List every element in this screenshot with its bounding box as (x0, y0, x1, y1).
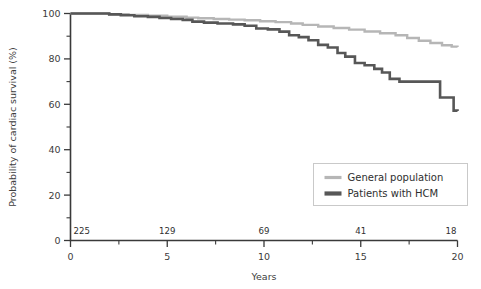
legend-label-1: Patients with HCM (348, 188, 439, 199)
chart-legend: General populationPatients with HCM (314, 164, 468, 206)
y-tick-label: 100 (42, 8, 60, 19)
x-axis-title: Years (250, 271, 276, 282)
y-axis-title: Probability of cardiac survival (%) (7, 47, 18, 207)
chart-canvas: 02040608010005101520 225129694118 Probab… (0, 0, 481, 289)
x-tick-label: 15 (355, 251, 367, 262)
y-tick-label: 20 (48, 190, 60, 201)
at-risk-value: 41 (355, 226, 366, 236)
y-tick-label: 0 (54, 235, 60, 246)
series-line-0 (71, 14, 458, 48)
at-risk-row: 225129694118 (74, 226, 457, 236)
series-group (71, 14, 458, 112)
x-tick-label: 0 (67, 251, 73, 262)
axis-lines (71, 14, 458, 241)
kaplan-meier-chart: 02040608010005101520 225129694118 Probab… (0, 0, 481, 289)
axes-group: 02040608010005101520 (42, 8, 463, 262)
x-tick-label: 20 (451, 251, 463, 262)
legend-label-0: General population (348, 172, 444, 183)
x-tick-label: 5 (164, 251, 170, 262)
y-tick-label: 80 (48, 53, 60, 64)
y-tick-label: 60 (48, 99, 60, 110)
axis-titles: Probability of cardiac survival (%)Years (7, 47, 277, 281)
series-line-1 (71, 14, 458, 112)
at-risk-value: 18 (446, 226, 457, 236)
x-tick-label: 10 (258, 251, 270, 262)
at-risk-value: 69 (259, 226, 270, 236)
at-risk-value: 225 (74, 226, 90, 236)
at-risk-value: 129 (159, 226, 175, 236)
y-tick-label: 40 (48, 144, 60, 155)
